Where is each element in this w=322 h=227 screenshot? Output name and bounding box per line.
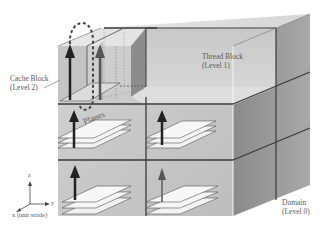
domain-decomposition-diagram: Cache Block (Level 2) Thread Block (Leve… xyxy=(0,0,322,227)
domain-label: Domain (Level 0) xyxy=(282,198,310,216)
axis-y-label: y xyxy=(51,199,54,208)
thread-block-label: Thread Block (Level 1) xyxy=(202,52,243,70)
axis-z-label: z xyxy=(28,171,31,180)
axes-triad xyxy=(16,181,50,212)
cache-block-label: Cache Block (Level 2) xyxy=(10,74,49,92)
axis-x-label: x (unit stride) xyxy=(12,210,47,219)
